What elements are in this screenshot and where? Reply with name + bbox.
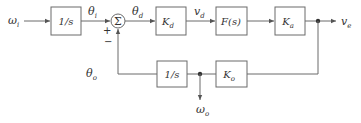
wire-theta-o (118, 29, 157, 74)
block-integrator-feedback: 1/s (157, 61, 187, 87)
block-ko: Ko (216, 61, 247, 87)
signal-theta-o: θo (86, 67, 97, 82)
signal-theta-i: θi (88, 5, 97, 20)
summing-junction: Σ (111, 14, 125, 28)
signal-omega-o: ωo (196, 103, 209, 118)
signal-v-e: ve (341, 15, 351, 30)
svg-text:1/s: 1/s (59, 16, 74, 27)
svg-text:F(s): F(s) (220, 16, 241, 27)
svg-text:1/s: 1/s (165, 69, 180, 80)
block-filter: F(s) (216, 7, 247, 35)
block-kd: Kd (156, 7, 186, 35)
signal-theta-d: θd (132, 5, 144, 20)
summer-minus-sign: − (104, 36, 112, 47)
block-integrator-input: 1/s (51, 7, 81, 35)
block-ka: Ka (275, 7, 305, 35)
signal-omega-i: ωi (8, 14, 19, 29)
block-diagram: ωi 1/s θi Σ + − θd Kd vd F(s) Ka ve Ko (0, 0, 361, 123)
svg-text:Σ: Σ (114, 15, 122, 28)
signal-v-d: vd (194, 5, 205, 20)
summer-plus-sign: + (103, 25, 111, 36)
